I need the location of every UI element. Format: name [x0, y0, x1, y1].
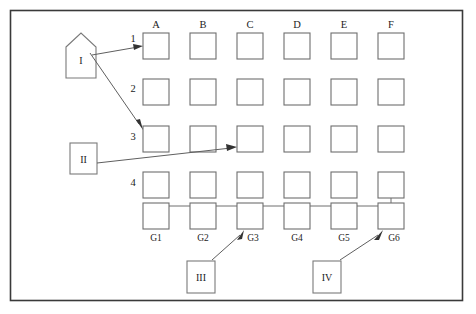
g-label-3: G3 — [247, 233, 259, 243]
cell-D2[interactable] — [284, 79, 310, 105]
cell-D3[interactable] — [284, 126, 310, 152]
cell-E1[interactable] — [331, 33, 357, 59]
row-label-4: 4 — [130, 177, 136, 188]
grid-row-1 — [143, 33, 404, 59]
cell-D4[interactable] — [284, 172, 310, 198]
node-iv-label: IV — [322, 272, 333, 283]
cell-G6[interactable] — [378, 203, 404, 229]
cell-C1[interactable] — [237, 33, 263, 59]
node-ii-label: II — [80, 154, 87, 165]
grid-row-3 — [143, 126, 404, 152]
grid-row-g — [143, 203, 404, 229]
connector-i-to-a1 — [92, 44, 143, 55]
column-header-a: A — [152, 19, 160, 30]
cell-F1[interactable] — [378, 33, 404, 59]
cell-B4[interactable] — [190, 172, 216, 198]
arrowhead-g3 — [237, 230, 244, 240]
cell-B1[interactable] — [190, 33, 216, 59]
cell-A3[interactable] — [143, 126, 169, 152]
cell-A2[interactable] — [143, 79, 169, 105]
cell-G2[interactable] — [190, 203, 216, 229]
cell-E2[interactable] — [331, 79, 357, 105]
column-header-group: A B C D E F — [152, 19, 394, 30]
cell-E3[interactable] — [331, 126, 357, 152]
cell-F4[interactable] — [378, 172, 404, 198]
row-label-group: 1 2 3 4 — [130, 33, 136, 188]
column-header-e: E — [341, 19, 347, 30]
g-label-group: G1 G2 G3 G4 G5 G6 — [150, 233, 400, 243]
cell-A1[interactable] — [143, 33, 169, 59]
node-iii[interactable]: III — [187, 261, 215, 293]
cell-A4[interactable] — [143, 172, 169, 198]
cell-B2[interactable] — [190, 79, 216, 105]
node-iv[interactable]: IV — [313, 261, 341, 293]
cell-G3[interactable] — [237, 203, 263, 229]
column-header-b: B — [199, 19, 206, 30]
g-label-4: G4 — [291, 233, 303, 243]
arrowhead-a1 — [133, 44, 143, 50]
connector-iii-to-g3 — [212, 230, 244, 260]
arrowhead-a3 — [136, 119, 143, 130]
arrowhead-g6 — [374, 230, 383, 240]
cell-C4[interactable] — [237, 172, 263, 198]
cell-G4[interactable] — [284, 203, 310, 229]
cell-E4[interactable] — [331, 172, 357, 198]
arrowhead-c3 — [226, 144, 237, 151]
g-label-2: G2 — [197, 233, 209, 243]
column-header-c: C — [246, 19, 253, 30]
g-label-1: G1 — [150, 233, 162, 243]
cell-D1[interactable] — [284, 33, 310, 59]
cell-G1[interactable] — [143, 203, 169, 229]
row-label-3: 3 — [130, 131, 135, 142]
row-label-1: 1 — [130, 33, 135, 44]
grid-row-2 — [143, 79, 404, 105]
g-label-6: G6 — [388, 233, 400, 243]
grid-row-4 — [143, 172, 404, 198]
diagram-svg: A B C D E F 1 2 3 4 — [0, 0, 476, 314]
column-header-f: F — [388, 19, 394, 30]
node-iii-label: III — [196, 272, 206, 283]
cell-F3[interactable] — [378, 126, 404, 152]
cell-C3[interactable] — [237, 126, 263, 152]
cell-C2[interactable] — [237, 79, 263, 105]
cell-F2[interactable] — [378, 79, 404, 105]
g-label-5: G5 — [338, 233, 350, 243]
diagram-canvas: A B C D E F 1 2 3 4 — [0, 0, 476, 314]
cell-G5[interactable] — [331, 203, 357, 229]
node-i-label: I — [79, 55, 82, 66]
cell-B3[interactable] — [190, 126, 216, 152]
column-header-d: D — [293, 19, 301, 30]
row-label-2: 2 — [130, 83, 135, 94]
node-ii[interactable]: II — [70, 143, 97, 174]
